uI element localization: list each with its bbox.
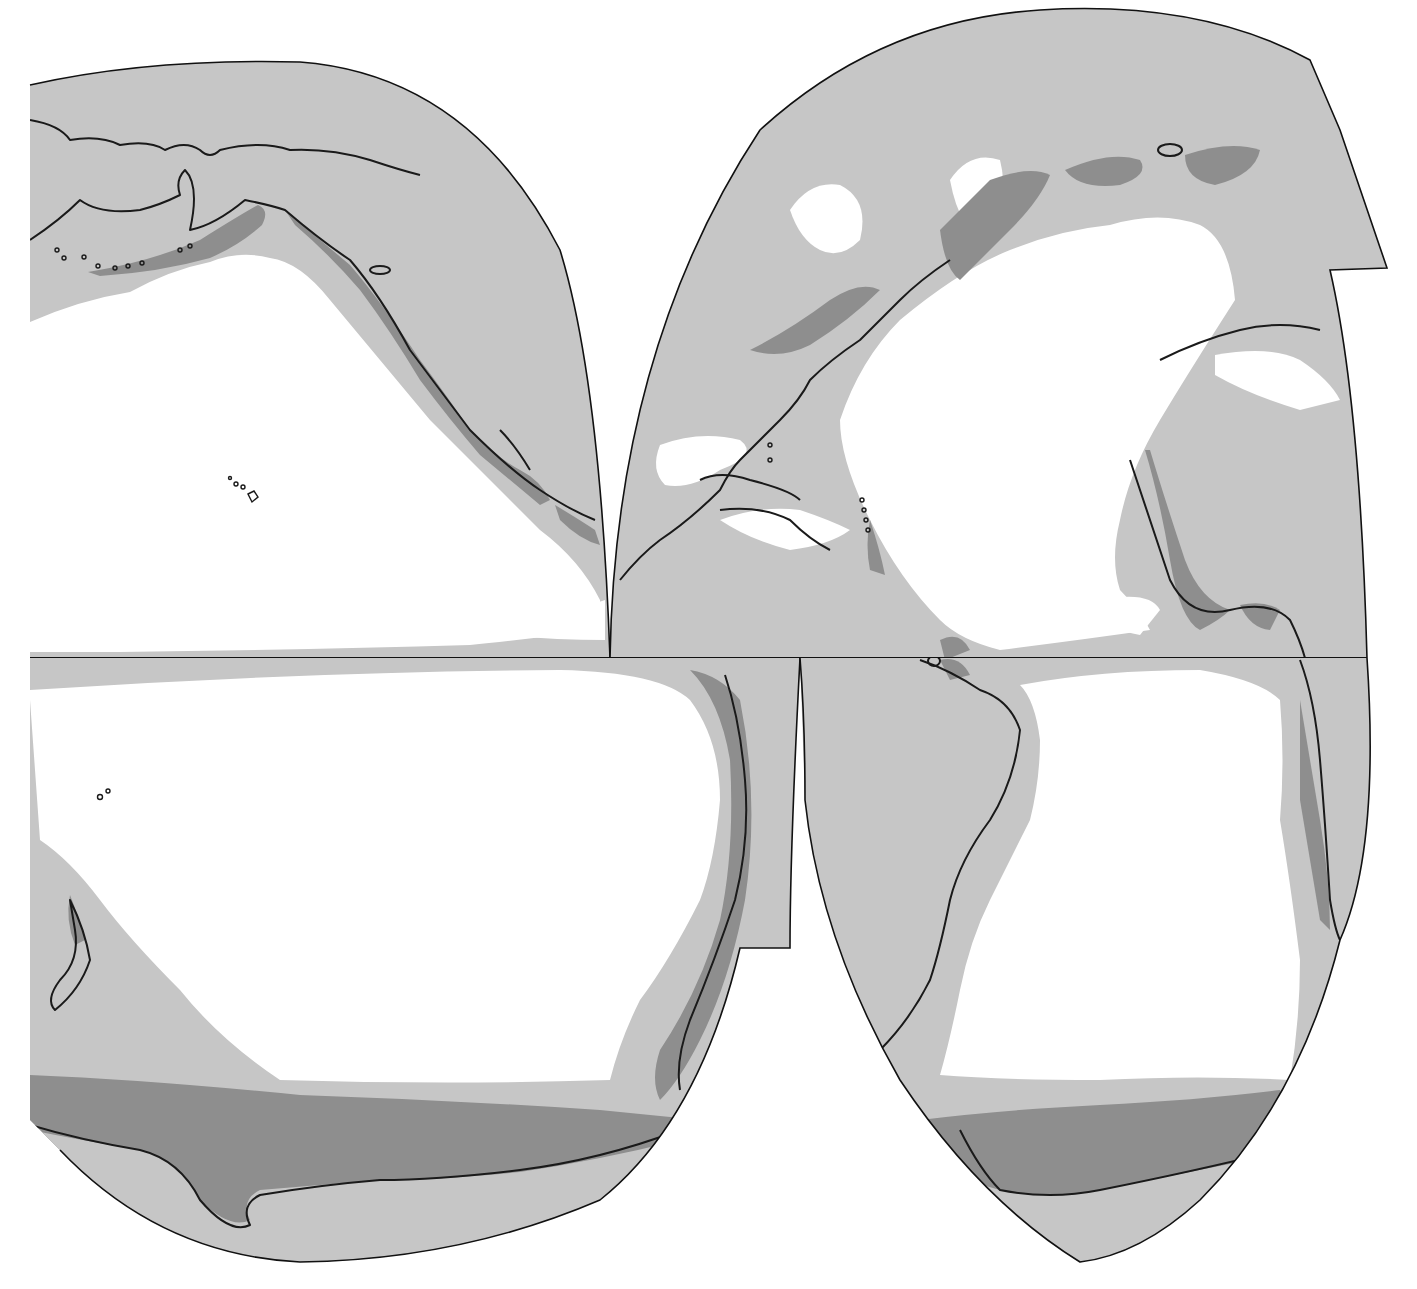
north-pacific-lobe xyxy=(30,58,620,658)
south-pacific-lobe xyxy=(30,658,810,1280)
world-map xyxy=(0,0,1417,1289)
north-atlantic-lobe xyxy=(600,0,1400,662)
south-atlantic-lobe xyxy=(800,656,1380,1278)
